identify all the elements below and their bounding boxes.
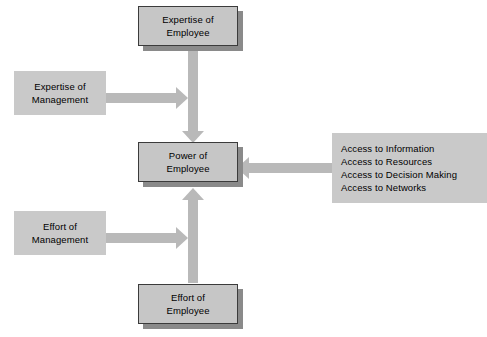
node-power-of-employee[interactable]: Power of Employee: [138, 142, 238, 182]
arrow-shaft-effort-management-right: [104, 233, 178, 243]
node-label-line: Management: [32, 233, 88, 246]
node-label-line: Access to Information: [341, 142, 434, 155]
node-expertise-of-employee[interactable]: Expertise of Employee: [138, 6, 238, 46]
node-label-line: Employee: [166, 26, 209, 39]
diagram-canvas: Expertise of Employee Expertise of Manag…: [0, 0, 487, 337]
node-effort-of-employee[interactable]: Effort of Employee: [138, 284, 238, 324]
arrow-shaft-access-left: [248, 163, 336, 173]
arrow-shaft-expertise-management-right: [104, 93, 178, 103]
node-label-line: Access to Decision Making: [341, 168, 457, 181]
node-label-line: Power of: [169, 149, 207, 162]
arrow-shaft-expertise-employee-down: [188, 46, 198, 136]
node-expertise-of-management[interactable]: Expertise of Management: [14, 71, 106, 115]
node-label-line: Effort of: [43, 220, 77, 233]
node-label-line: Employee: [166, 162, 209, 175]
arrow-head-effort-management-right: [176, 227, 188, 249]
node-access-sources[interactable]: Access to Information Access to Resource…: [332, 133, 487, 203]
node-label-line: Expertise of: [162, 13, 213, 26]
node-label-line: Management: [32, 93, 88, 106]
node-label-line: Access to Networks: [341, 181, 426, 194]
node-label-line: Effort of: [171, 291, 205, 304]
node-effort-of-management[interactable]: Effort of Management: [14, 211, 106, 255]
node-label-line: Access to Resources: [341, 155, 432, 168]
arrow-shaft-effort-employee-up: [188, 199, 198, 283]
arrow-head-expertise-management-right: [176, 87, 188, 109]
node-label-line: Expertise of: [34, 80, 85, 93]
arrow-head-effort-employee-up: [182, 188, 204, 200]
node-label-line: Employee: [166, 304, 209, 317]
